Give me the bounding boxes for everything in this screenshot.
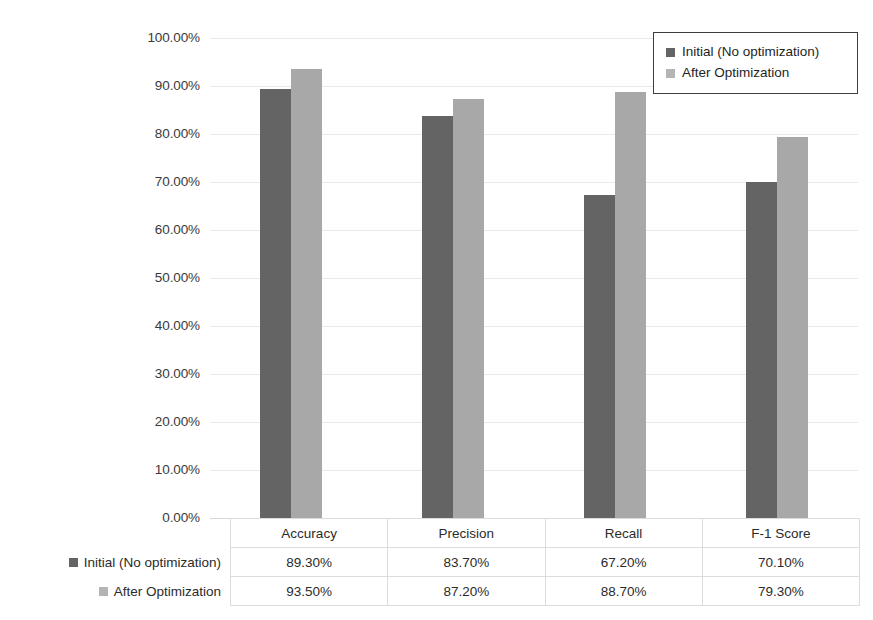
bar (291, 69, 322, 518)
y-axis-tick-label: 100.00% (104, 31, 200, 45)
table-header-row: AccuracyPrecisionRecallF-1 Score (30, 519, 860, 548)
bar (260, 89, 291, 518)
y-axis-tick-label: 50.00% (104, 271, 200, 285)
table-row-label: Initial (No optimization) (84, 555, 221, 570)
chart-legend: Initial (No optimization)After Optimizat… (653, 32, 858, 94)
table-column-header: Accuracy (231, 519, 388, 548)
bar (584, 195, 615, 518)
table-cell-value: 87.20% (388, 577, 545, 606)
bar-chart: 0.00%10.00%20.00%30.00%40.00%50.00%60.00… (0, 0, 873, 620)
table-cell-value: 67.20% (545, 548, 702, 577)
legend-swatch-icon (69, 558, 78, 567)
table-column-header: F-1 Score (702, 519, 859, 548)
table-row-series-name: After Optimization (30, 577, 231, 606)
table-cell-value: 89.30% (231, 548, 388, 577)
bar-group (422, 38, 484, 518)
legend-swatch-icon (666, 48, 675, 57)
legend-item[interactable]: After Optimization (666, 63, 847, 84)
bar (615, 92, 646, 518)
table-row: After Optimization93.50%87.20%88.70%79.3… (30, 577, 860, 606)
legend-item-label: Initial (No optimization) (682, 42, 819, 63)
y-axis-tick-label: 20.00% (104, 415, 200, 429)
table-cell-value: 93.50% (231, 577, 388, 606)
legend-item[interactable]: Initial (No optimization) (666, 42, 847, 63)
table-column-header: Precision (388, 519, 545, 548)
y-axis-tick-label: 60.00% (104, 223, 200, 237)
bar (422, 116, 453, 518)
table-row-series-name: Initial (No optimization) (30, 548, 231, 577)
table-row-label: After Optimization (114, 584, 221, 599)
table-cell-value: 88.70% (545, 577, 702, 606)
y-axis-tick-label: 30.00% (104, 367, 200, 381)
table-cell-value: 79.30% (702, 577, 859, 606)
y-axis-tick-label: 70.00% (104, 175, 200, 189)
legend-swatch-icon (99, 587, 108, 596)
y-axis-tick-label: 90.00% (104, 79, 200, 93)
table-row: Initial (No optimization)89.30%83.70%67.… (30, 548, 860, 577)
y-axis-tick-label: 10.00% (104, 463, 200, 477)
chart-data-table: AccuracyPrecisionRecallF-1 ScoreInitial … (30, 518, 860, 606)
bar-group (746, 38, 808, 518)
table-cell-value: 83.70% (388, 548, 545, 577)
y-axis-tick-label: 40.00% (104, 319, 200, 333)
table-cell-value: 70.10% (702, 548, 859, 577)
legend-item-label: After Optimization (682, 63, 789, 84)
y-axis: 0.00%10.00%20.00%30.00%40.00%50.00%60.00… (100, 38, 200, 518)
table-corner-cell (30, 519, 231, 548)
plot-area (210, 38, 858, 518)
table-column-header: Recall (545, 519, 702, 548)
bar-group (260, 38, 322, 518)
bar (746, 182, 777, 518)
bar (453, 99, 484, 518)
y-axis-tick-label: 80.00% (104, 127, 200, 141)
legend-swatch-icon (666, 69, 675, 78)
bar (777, 137, 808, 518)
bar-group (584, 38, 646, 518)
